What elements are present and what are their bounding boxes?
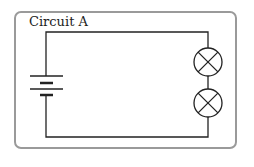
- top-wire: [46, 32, 208, 76]
- battery-icon: [30, 76, 63, 95]
- lamp-icon-2: [194, 89, 222, 117]
- circuit-diagram: [0, 0, 254, 167]
- lamp-icon-1: [194, 48, 222, 76]
- bottom-wire: [46, 95, 208, 137]
